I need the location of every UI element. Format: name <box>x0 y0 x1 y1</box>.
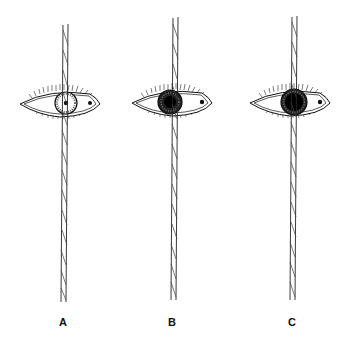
panel-label-c: C <box>288 316 296 328</box>
rod-c <box>290 16 297 300</box>
panel-c-eye <box>250 83 330 118</box>
panel-a-eye <box>20 84 100 119</box>
rod-b <box>171 17 178 300</box>
panel-label-b: B <box>168 316 176 328</box>
eye-rod-illustration <box>0 0 347 343</box>
panel-label-a: A <box>59 316 67 328</box>
rod-a <box>61 24 68 302</box>
